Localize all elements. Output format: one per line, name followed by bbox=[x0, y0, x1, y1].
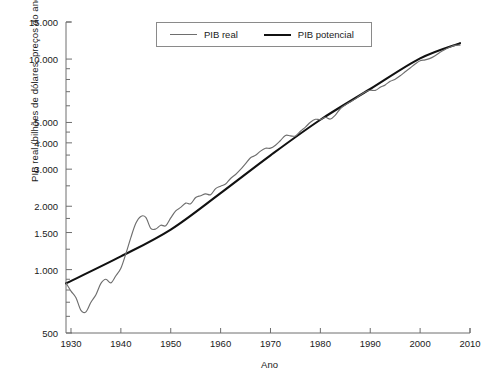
x-tick-marks bbox=[71, 328, 470, 333]
y-tick-marks bbox=[66, 22, 72, 333]
series-line-pib-potencial bbox=[66, 43, 460, 283]
legend-label-pib-potencial: PIB potencial bbox=[298, 29, 354, 40]
legend-item-pib-real: PIB real bbox=[170, 29, 238, 40]
legend-line-icon-pib-potencial bbox=[264, 34, 291, 36]
plot-area bbox=[0, 0, 491, 377]
legend-item-pib-potencial: PIB potencial bbox=[264, 29, 354, 40]
legend-label-pib-real: PIB real bbox=[204, 29, 238, 40]
legend-line-icon-pib-real bbox=[170, 34, 197, 35]
series-line-pib-real bbox=[66, 45, 460, 313]
chart-legend: PIB real PIB potencial bbox=[156, 22, 372, 47]
chart-container: PIB real (bilhões de dólares, preços do … bbox=[0, 0, 491, 377]
